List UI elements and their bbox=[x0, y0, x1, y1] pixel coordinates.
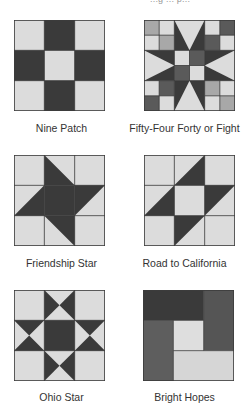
nine-patch-block bbox=[14, 20, 105, 111]
friendship-star-label: Friendship Star bbox=[0, 257, 123, 269]
nine-patch-diagram bbox=[14, 20, 105, 111]
ohio-star-diagram bbox=[14, 290, 105, 381]
friendship-star-block bbox=[14, 155, 105, 246]
road-to-california-label: Road to California bbox=[123, 257, 246, 269]
road-to-california-diagram bbox=[144, 155, 235, 246]
ohio-star-block bbox=[14, 290, 105, 381]
bright-hopes-label: Bright Hopes bbox=[123, 391, 246, 403]
friendship-star-diagram bbox=[14, 155, 105, 246]
nine-patch-label: Nine Patch bbox=[0, 122, 123, 134]
bright-hopes-diagram bbox=[143, 290, 234, 381]
fifty-four-forty-diagram bbox=[144, 20, 235, 111]
bright-hopes-block bbox=[143, 290, 234, 381]
road-to-california-block bbox=[144, 155, 235, 246]
fifty-four-forty-block bbox=[144, 20, 235, 111]
fifty-four-forty-label: Fifty-Four Forty or Fight bbox=[123, 122, 246, 134]
ohio-star-label: Ohio Star bbox=[0, 391, 123, 403]
quilt-block-gallery: Nine Patch bbox=[0, 0, 246, 412]
